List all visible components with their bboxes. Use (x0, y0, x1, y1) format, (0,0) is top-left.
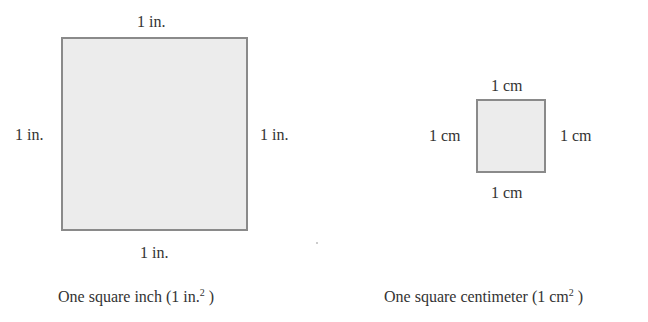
inch-top-label: 1 in. (137, 13, 165, 31)
cm-top-label: 1 cm (491, 77, 523, 95)
inch-caption-text: One square inch (1 in. (58, 288, 200, 305)
inch-bottom-label: 1 in. (140, 244, 168, 262)
cm-bottom-label: 1 cm (491, 184, 523, 202)
cm-caption-text: One square centimeter (1 cm (384, 288, 569, 305)
inch-right-label: 1 in. (260, 126, 288, 144)
cm-caption: One square centimeter (1 cm2 ) (384, 284, 583, 306)
cm-left-label: 1 cm (429, 127, 461, 145)
inch-caption-close: ) (205, 288, 214, 305)
inch-left-label: 1 in. (15, 126, 43, 144)
square-centimeter-shape (476, 99, 546, 173)
cm-right-label: 1 cm (560, 127, 592, 145)
inch-caption: One square inch (1 in.2 ) (58, 284, 214, 306)
square-inch-shape (61, 37, 248, 231)
cm-caption-close: ) (574, 288, 583, 305)
stray-dot (316, 242, 318, 244)
